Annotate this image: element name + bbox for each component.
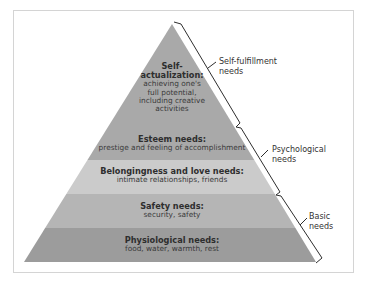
level-belongingness: Belongingness and love needs: intimate r… xyxy=(62,167,282,184)
tick-basic xyxy=(300,218,307,225)
level-desc: food, water, warmth, rest xyxy=(72,245,272,253)
level-desc: intimate relationships, friends xyxy=(62,176,282,184)
level-safety: Safety needs: security, safety xyxy=(72,202,272,219)
group-basic: Basic needs xyxy=(309,212,333,231)
group-label: Psychological xyxy=(272,145,326,155)
group-self-fulfillment: Self-fulfillment needs xyxy=(219,57,277,76)
group-psychological: Psychological needs xyxy=(272,145,326,164)
tick-psychological xyxy=(261,150,268,157)
level-desc: activities xyxy=(112,105,232,113)
level-esteem: Esteem needs: prestige and feeling of ac… xyxy=(82,135,262,152)
group-label: needs xyxy=(272,155,326,165)
level-desc: prestige and feeling of accomplishment xyxy=(82,144,262,152)
group-label: needs xyxy=(219,67,277,77)
level-desc: security, safety xyxy=(72,211,272,219)
group-label: Basic xyxy=(309,212,333,222)
level-self-actualization: Self- actualization: achieving one's ful… xyxy=(112,62,232,114)
level-physiological: Physiological needs: food, water, warmth… xyxy=(72,236,272,253)
group-label: Self-fulfillment xyxy=(219,57,277,67)
group-label: needs xyxy=(309,222,333,232)
